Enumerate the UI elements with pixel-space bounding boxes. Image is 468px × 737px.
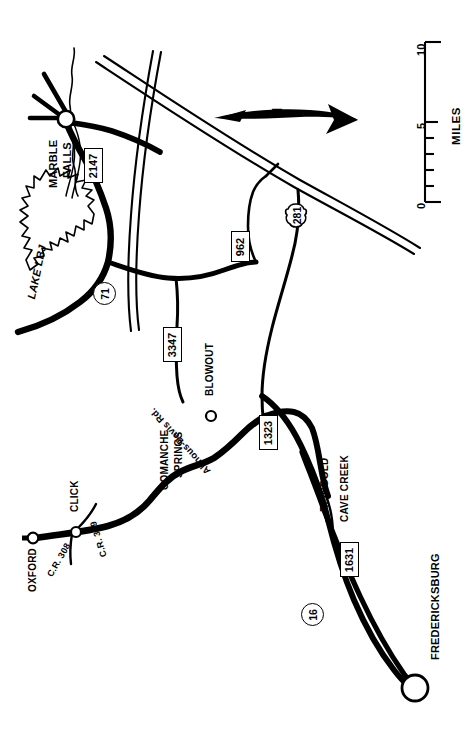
city-marker-blowout <box>206 411 216 421</box>
highway-71-south-branch <box>108 262 256 279</box>
route-shield-71-number: 71 <box>99 288 111 300</box>
route-shield-1631[interactable]: 1631 <box>340 542 359 577</box>
road-fm-1323-line <box>262 190 299 444</box>
route-shield-16-number: 16 <box>307 609 319 621</box>
city-marker-marble-falls <box>58 111 74 127</box>
route-shield-281-number: 281 <box>284 204 309 228</box>
city-label-marble-falls-line2: FALLS <box>62 142 73 178</box>
route-shield-281[interactable]: 281 <box>284 203 308 228</box>
road-fm-962-line <box>248 176 266 262</box>
route-shield-962-number: 962 <box>235 237 247 255</box>
scale-tick-label-5: 5 <box>416 123 427 129</box>
scale-bar-unit-label: MILES <box>451 107 463 145</box>
route-shield-16[interactable]: 16 <box>301 603 324 626</box>
route-shield-1323[interactable]: 1323 <box>259 415 278 450</box>
route-shield-2147[interactable]: 2147 <box>84 148 103 183</box>
north-arrow-label: N <box>270 108 284 118</box>
scale-tick-label-0: 0 <box>416 203 427 209</box>
city-label-fredericksburg: FREDERICKSBURG <box>430 553 441 660</box>
city-label-reingold: REINGOLD <box>320 458 330 512</box>
city-marker-fredericksburg <box>402 675 428 701</box>
city-label-click: CLICK <box>70 480 80 512</box>
city-label-marble-falls-line1: MARBLE <box>48 140 59 188</box>
city-marker-oxford <box>28 533 39 544</box>
city-label-blowout: BLOWOUT <box>205 343 215 396</box>
city-label-comanche-springs-line1: COMANCHE <box>160 430 170 491</box>
scale-bar-graphic <box>425 42 441 202</box>
route-shield-962[interactable]: 962 <box>231 231 250 262</box>
city-marker-click <box>71 527 81 537</box>
main-county-road-line <box>36 416 266 538</box>
route-shield-71[interactable]: 71 <box>93 282 116 305</box>
map-canvas: MARBLE FALLS FREDERICKSBURG OXFORD CLICK… <box>0 0 468 737</box>
route-shield-1631-number: 1631 <box>344 547 356 571</box>
route-shield-3347-number: 3347 <box>167 332 179 356</box>
map-graphics <box>0 0 468 737</box>
route-shield-1323-number: 1323 <box>263 420 275 444</box>
route-shield-2147-number: 2147 <box>88 153 100 177</box>
scale-tick-label-10: 10 <box>416 43 427 56</box>
city-label-oxford: OXFORD <box>28 548 38 592</box>
city-label-cave-creek: CAVE CREEK <box>340 455 350 522</box>
route-shield-3347[interactable]: 3347 <box>163 327 182 362</box>
north-arrow-icon <box>214 104 358 134</box>
